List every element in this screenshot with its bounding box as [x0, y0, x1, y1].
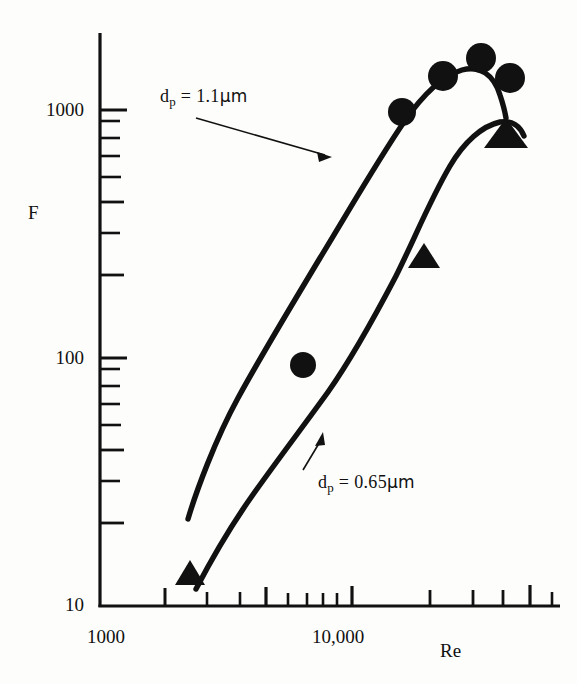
y-tick-label-1000: 1000 — [22, 99, 84, 121]
annotation-symbol: d — [160, 86, 169, 106]
leader-arrowhead — [315, 432, 325, 446]
leader-arrowhead — [317, 152, 332, 162]
annotation-dp-1-1: dp=1.1µm — [160, 86, 248, 110]
figure-canvas: 1000 100 10 F 1000 10,000 Re dp=1.1µm dp… — [0, 0, 577, 684]
data-point-circle — [466, 43, 496, 73]
curve-dp-1-1 — [188, 69, 506, 519]
data-point-circle — [388, 98, 416, 126]
x-axis-title: Re — [440, 640, 461, 662]
axis-lines — [98, 33, 560, 607]
y-axis-title: F — [28, 202, 39, 224]
annotation-value: 0.65 — [354, 472, 387, 492]
leader-line — [196, 118, 325, 155]
data-markers-circles — [290, 43, 525, 378]
annotation-dp-0-65: dp=0.65µm — [318, 472, 415, 496]
annotation-subscript: p — [327, 480, 334, 495]
data-point-circle — [428, 61, 458, 91]
annotation-value: 1.1 — [196, 86, 219, 106]
annotation-leader-upper — [196, 118, 332, 162]
annotation-subscript: p — [169, 94, 176, 109]
annotation-equals: = — [181, 86, 191, 106]
x-axis-ticks — [165, 585, 552, 606]
data-point-circle — [290, 352, 316, 378]
data-point-circle — [495, 63, 525, 93]
annotation-unit: µm — [387, 472, 415, 492]
annotation-unit: µm — [220, 86, 248, 106]
y-axis-ticks — [100, 110, 127, 523]
x-tick-label-1000: 1000 — [66, 626, 146, 648]
y-tick-label-10: 10 — [22, 594, 84, 616]
annotation-equals: = — [339, 472, 349, 492]
annotation-leader-lower — [303, 432, 325, 470]
log-log-plot — [0, 0, 577, 684]
annotation-symbol: d — [318, 472, 327, 492]
y-tick-label-100: 100 — [22, 347, 84, 369]
data-point-triangle — [175, 560, 205, 585]
x-tick-label-10000: 10,000 — [290, 626, 386, 648]
